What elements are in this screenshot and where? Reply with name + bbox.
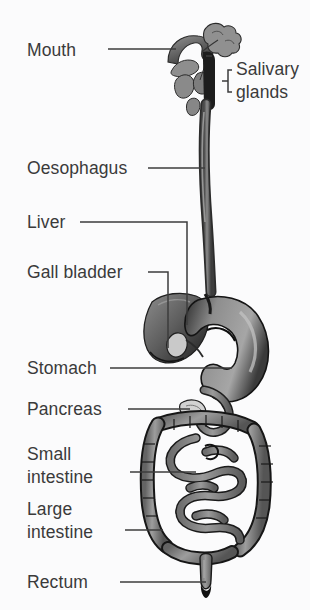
label-large-intestine-line2: intestine — [27, 521, 93, 544]
label-rectum: Rectum — [27, 571, 88, 593]
oesophagus-illustration — [202, 104, 211, 292]
label-salivary-glands-line2: glands — [236, 81, 288, 104]
label-stomach: Stomach — [27, 357, 97, 379]
label-small-intestine-line1: Small — [27, 443, 71, 466]
digestive-system-figure: Mouth Salivary glands Oesophagus Liver G… — [0, 0, 310, 610]
rectum-illustration — [200, 554, 212, 599]
label-pancreas: Pancreas — [27, 398, 102, 420]
label-mouth: Mouth — [27, 39, 76, 61]
label-liver: Liver — [27, 211, 65, 233]
label-gall-bladder: Gall bladder — [27, 261, 123, 283]
label-salivary-glands-line1: Salivary — [236, 58, 299, 81]
label-large-intestine-line1: Large — [27, 498, 72, 521]
label-oesophagus: Oesophagus — [27, 157, 127, 179]
leader-line-salivary-glands — [222, 70, 232, 92]
small-intestine-illustration — [170, 438, 242, 540]
label-small-intestine-line2: intestine — [27, 466, 93, 489]
